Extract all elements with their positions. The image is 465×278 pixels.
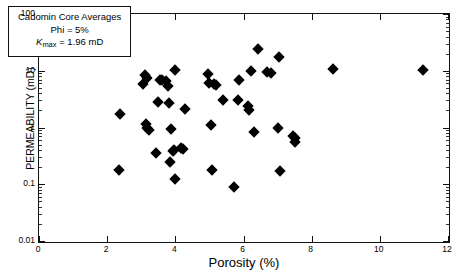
x-tick-top-12 xyxy=(448,14,449,20)
y-minor-tick-right xyxy=(446,133,449,134)
y-minor-tick xyxy=(39,73,42,74)
data-point xyxy=(163,98,174,109)
y-minor-tick-right xyxy=(446,167,449,168)
y-tick-label-100: 100 xyxy=(5,9,35,18)
data-point xyxy=(166,123,177,134)
y-minor-tick-right xyxy=(446,190,449,191)
x-tick-label-12: 12 xyxy=(435,245,459,254)
y-tick-10 xyxy=(39,71,45,72)
y-minor-tick xyxy=(39,110,42,111)
legend-kmax: Kmax = 1.96 mD xyxy=(18,36,121,51)
data-point xyxy=(206,165,217,176)
y-minor-tick-right xyxy=(446,27,449,28)
y-minor-tick-right xyxy=(446,73,449,74)
y-minor-tick-right xyxy=(446,150,449,151)
y-minor-tick-right xyxy=(446,214,449,215)
y-minor-tick-right xyxy=(446,37,449,38)
data-point xyxy=(418,64,429,75)
y-minor-tick xyxy=(39,83,42,84)
y-minor-tick xyxy=(39,197,42,198)
data-point xyxy=(179,104,190,115)
x-tick-12 xyxy=(448,236,449,242)
x-tick-label-0: 0 xyxy=(26,245,50,254)
y-tick-label-1: 1 xyxy=(5,123,35,132)
y-minor-tick-right xyxy=(446,76,449,77)
y-minor-tick xyxy=(39,140,42,141)
data-point xyxy=(275,166,286,177)
legend-phi: Phi = 5% xyxy=(18,24,121,37)
y-minor-tick-right xyxy=(446,44,449,45)
y-minor-tick xyxy=(39,145,42,146)
y-minor-tick xyxy=(39,130,42,131)
y-tick-right-0.1 xyxy=(443,184,449,185)
data-point xyxy=(150,148,161,159)
data-point xyxy=(113,165,124,176)
data-point xyxy=(245,65,256,76)
y-minor-tick-right xyxy=(446,157,449,158)
y-tick-label-0.01: 0.01 xyxy=(5,236,35,245)
x-tick-10 xyxy=(380,236,381,242)
data-point xyxy=(327,63,338,74)
y-minor-tick-right xyxy=(446,136,449,137)
data-point xyxy=(165,156,176,167)
scatter-chart-figure: PERMEABILITY (mD) Porosity (%) Cadomin C… xyxy=(0,0,465,278)
y-minor-tick xyxy=(39,201,42,202)
data-point xyxy=(248,127,259,138)
x-tick-top-10 xyxy=(380,14,381,20)
y-minor-tick xyxy=(39,150,42,151)
x-tick-label-6: 6 xyxy=(231,245,255,254)
y-minor-tick-right xyxy=(446,83,449,84)
y-minor-tick xyxy=(39,224,42,225)
data-point xyxy=(170,174,181,185)
y-minor-tick-right xyxy=(446,224,449,225)
x-tick-6 xyxy=(244,236,245,242)
y-minor-tick xyxy=(39,100,42,101)
data-point xyxy=(234,74,245,85)
y-minor-tick-right xyxy=(446,130,449,131)
y-minor-tick xyxy=(39,93,42,94)
y-minor-tick-right xyxy=(446,207,449,208)
data-point xyxy=(274,51,285,62)
x-tick-label-2: 2 xyxy=(94,245,118,254)
y-minor-tick xyxy=(39,207,42,208)
x-tick-top-6 xyxy=(244,14,245,20)
y-minor-tick-right xyxy=(446,80,449,81)
y-minor-tick-right xyxy=(446,201,449,202)
y-tick-0.1 xyxy=(39,184,45,185)
y-minor-tick-right xyxy=(446,31,449,32)
y-minor-tick xyxy=(39,214,42,215)
y-minor-tick-right xyxy=(446,23,449,24)
y-minor-tick-right xyxy=(446,187,449,188)
y-minor-tick xyxy=(39,76,42,77)
y-tick-label-0.1: 0.1 xyxy=(5,179,35,188)
x-tick-top-4 xyxy=(175,14,176,20)
data-point xyxy=(169,64,180,75)
x-tick-0 xyxy=(39,236,40,242)
y-minor-tick-right xyxy=(446,140,449,141)
y-minor-tick-right xyxy=(446,100,449,101)
y-minor-tick-right xyxy=(446,54,449,55)
y-minor-tick-right xyxy=(446,110,449,111)
y-minor-tick xyxy=(39,157,42,158)
y-minor-tick xyxy=(39,88,42,89)
kmax-subscript: max xyxy=(42,40,56,49)
y-minor-tick xyxy=(39,133,42,134)
y-minor-tick-right xyxy=(446,197,449,198)
data-point xyxy=(217,95,228,106)
y-minor-tick xyxy=(39,193,42,194)
x-tick-8 xyxy=(312,236,313,242)
x-tick-label-4: 4 xyxy=(162,245,186,254)
y-minor-tick-right xyxy=(446,193,449,194)
y-tick-label-10: 10 xyxy=(5,66,35,75)
x-tick-4 xyxy=(175,236,176,242)
y-tick-right-10 xyxy=(443,71,449,72)
y-minor-tick-right xyxy=(446,145,449,146)
data-point xyxy=(252,44,263,55)
data-point xyxy=(273,122,284,133)
y-minor-tick xyxy=(39,190,42,191)
data-point xyxy=(114,108,125,119)
kmax-value: = 1.96 mD xyxy=(57,36,104,47)
x-tick-label-8: 8 xyxy=(299,245,323,254)
x-tick-2 xyxy=(107,236,108,242)
y-minor-tick xyxy=(39,187,42,188)
